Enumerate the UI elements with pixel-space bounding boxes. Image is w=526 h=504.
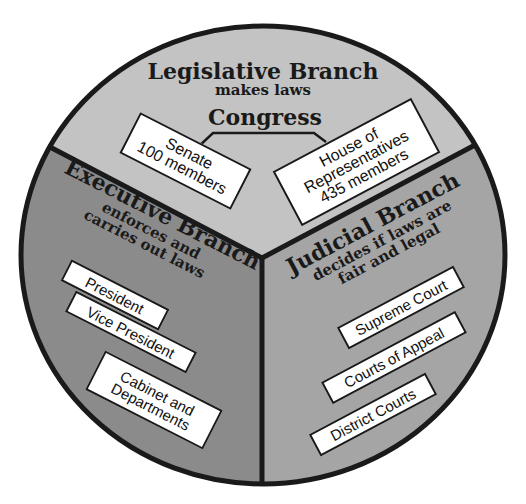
legislative-subtitle: makes laws [130, 83, 396, 98]
branches-of-government-diagram: Legislative Branch makes laws Congress S… [0, 0, 526, 504]
legislative-heading: Legislative Branch makes laws [130, 60, 396, 98]
congress-label: Congress [190, 106, 340, 128]
